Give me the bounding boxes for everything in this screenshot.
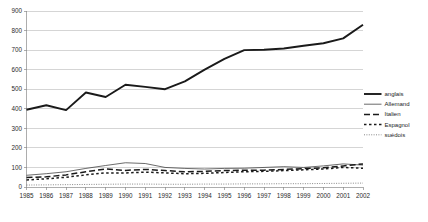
y-axis-tick-label: 300 — [11, 125, 22, 132]
y-axis-tick-label: 800 — [11, 27, 22, 34]
x-axis-tick-label: 1986 — [39, 192, 54, 199]
axis-lines-group — [27, 11, 364, 187]
x-axis-labels-group: 1985198619871988198919901991199219931994… — [19, 192, 370, 199]
y-tick-marks-group — [24, 11, 27, 187]
x-axis-tick-label: 1989 — [99, 192, 114, 199]
x-axis-tick-label: 1994 — [198, 192, 213, 199]
y-axis-tick-label: 700 — [11, 46, 22, 53]
y-axis-labels-group: 0100200300400500600700800900 — [11, 7, 22, 190]
x-axis-tick-label: 1997 — [257, 192, 272, 199]
legend-label-italien: Italien — [385, 111, 401, 117]
x-axis-tick-label: 1988 — [79, 192, 94, 199]
series-line-suédois — [27, 183, 364, 185]
x-axis-tick-label: 2000 — [316, 192, 331, 199]
gridlines-group — [27, 11, 364, 167]
x-axis-tick-label: 1985 — [19, 192, 34, 199]
x-axis-tick-label: 1996 — [237, 192, 252, 199]
y-axis-tick-label: 100 — [11, 164, 22, 171]
x-axis-tick-label: 1990 — [118, 192, 133, 199]
x-axis-tick-label: 1992 — [158, 192, 173, 199]
y-axis-tick-label: 500 — [11, 85, 22, 92]
x-axis-tick-label: 2001 — [336, 192, 351, 199]
x-axis-tick-label: 1991 — [138, 192, 153, 199]
y-axis-tick-label: 400 — [11, 105, 22, 112]
chart-legend: anglaisAllemandItalienEspagnolsuédois — [364, 91, 410, 138]
x-axis-tick-label: 1987 — [59, 192, 74, 199]
data-series-group — [27, 25, 364, 185]
y-axis-tick-label: 200 — [11, 144, 22, 151]
x-tick-marks-group — [27, 187, 364, 190]
line-chart: 0100200300400500600700800900 19851986198… — [0, 0, 428, 222]
y-axis-tick-label: 900 — [11, 7, 22, 14]
legend-label-anglais: anglais — [385, 91, 404, 97]
y-axis-tick-label: 600 — [11, 66, 22, 73]
x-axis-tick-label: 1999 — [297, 192, 312, 199]
x-axis-tick-label: 1998 — [277, 192, 292, 199]
y-axis-tick-label: 0 — [18, 183, 22, 190]
x-axis-tick-label: 1995 — [217, 192, 232, 199]
x-axis-tick-label: 2002 — [356, 192, 371, 199]
legend-label-suédois: suédois — [385, 132, 406, 138]
chart-plot-area: 0100200300400500600700800900 19851986198… — [0, 0, 428, 222]
legend-label-allemand: Allemand — [385, 101, 410, 107]
series-line-anglais — [27, 25, 364, 110]
legend-label-espagnol: Espagnol — [385, 122, 410, 128]
x-axis-tick-label: 1993 — [178, 192, 193, 199]
